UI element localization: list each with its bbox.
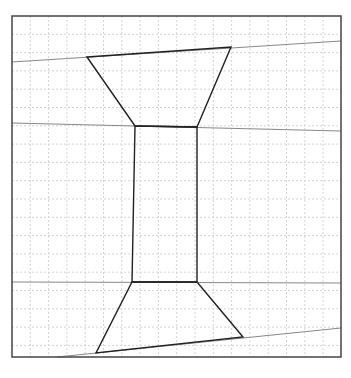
diagram-canvas: [0, 0, 351, 378]
bottom-trapezoid: [96, 282, 243, 353]
top-trapezoid: [87, 47, 231, 127]
middle-rectangle: [132, 126, 197, 282]
